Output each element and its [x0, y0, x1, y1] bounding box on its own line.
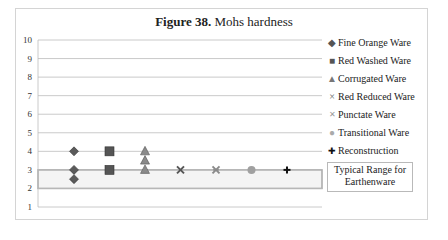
legend-label: Corrugated Ware	[338, 70, 406, 88]
legend-item-reconstruction: ✚Reconstruction	[327, 142, 415, 160]
y-tick-label: 6	[28, 109, 33, 119]
legend-label: Punctate Ware	[338, 106, 396, 124]
y-tick-label: 4	[28, 146, 33, 156]
plus-icon: ✚	[327, 142, 337, 160]
y-tick-label: 5	[28, 128, 33, 138]
earthenware-range-band	[38, 170, 322, 189]
legend-label: Fine Orange Ware	[338, 34, 411, 52]
square-marker	[105, 147, 114, 156]
typical-range-label: Typical Range for Earthenware	[327, 162, 413, 192]
range-label-line2: Earthenware	[328, 176, 412, 188]
y-tick-label: 8	[28, 72, 33, 82]
triangle-icon: ▲	[327, 70, 337, 88]
y-tick-label: 2	[28, 183, 33, 193]
circle-marker	[248, 166, 256, 174]
legend-item-fine-orange: ◆Fine Orange Ware	[327, 34, 415, 52]
legend-item-punctate: ✕Punctate Ware	[327, 106, 415, 124]
y-tick-label: 9	[28, 54, 33, 64]
triangle-marker	[141, 146, 150, 155]
legend-label: Red Reduced Ware	[338, 88, 415, 106]
legend: ◆Fine Orange Ware ■Red Washed Ware ▲Corr…	[327, 34, 415, 160]
y-tick-label: 7	[28, 91, 33, 101]
y-tick-label: 1	[28, 202, 33, 212]
star-x-icon: ✕	[327, 106, 337, 124]
legend-label: Transitional Ware	[338, 124, 409, 142]
y-tick-label: 3	[28, 165, 33, 175]
legend-item-red-reduced: ×Red Reduced Ware	[327, 88, 415, 106]
triangle-marker	[141, 156, 150, 165]
legend-item-red-washed: ■Red Washed Ware	[327, 52, 415, 70]
legend-item-corrugated: ▲Corrugated Ware	[327, 70, 415, 88]
diamond-marker	[70, 147, 79, 156]
square-icon: ■	[327, 52, 337, 70]
diamond-icon: ◆	[327, 34, 337, 52]
square-marker	[105, 165, 114, 174]
legend-label: Red Washed Ware	[338, 52, 411, 70]
x-mark-icon: ×	[327, 88, 337, 106]
legend-item-transitional: ●Transitional Ware	[327, 124, 415, 142]
y-tick-label: 10	[23, 35, 33, 45]
range-label-line1: Typical Range for	[328, 164, 412, 176]
legend-label: Reconstruction	[338, 142, 399, 160]
circle-icon: ●	[327, 124, 337, 142]
